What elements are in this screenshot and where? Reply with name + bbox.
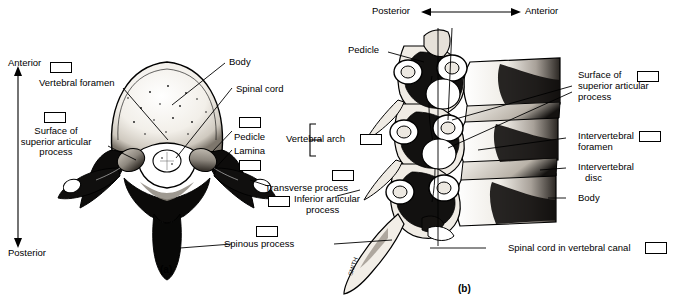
label-intervertebral-foramen: Intervertebral	[578, 131, 634, 142]
label-vertebral-foramen: Vertebral foramen	[39, 78, 115, 89]
orientation-posterior-left: Posterior	[8, 248, 46, 259]
checkbox-spinous-process[interactable]	[256, 226, 278, 237]
label-body-lateral: Body	[578, 193, 600, 204]
label-pedicle-lateral: Pedicle	[348, 45, 379, 56]
figure-canvas: SMITH	[0, 0, 673, 305]
orientation-anterior-left: Anterior	[8, 58, 41, 69]
checkbox-intervertebral-foramen[interactable]	[639, 131, 661, 142]
label-foramen-word: foramen	[578, 142, 613, 153]
label-surface-superior-articular-process: Surface of superior articular process	[6, 126, 106, 158]
label-vertebral-arch: Vertebral arch	[286, 134, 345, 145]
orientation-anterior-right: Anterior	[525, 6, 558, 17]
label-inferior-articular: Inferior articular	[294, 194, 360, 205]
checkbox-inferior-articular-process[interactable]	[268, 196, 290, 207]
label-spinal-cord: Spinal cord	[236, 84, 284, 95]
caption-panel-a: (a)	[160, 264, 172, 275]
checkbox-spinal-cord-in-vertebral-canal[interactable]	[645, 242, 667, 254]
label-line-superior-articular: superior articular	[21, 136, 92, 147]
label-spinous-process: Spinous process	[224, 239, 294, 250]
caption-panel-b: (b)	[458, 283, 471, 294]
label-transverse-process: Transverse process	[265, 183, 348, 194]
checkbox-lamina[interactable]	[239, 160, 261, 171]
checkbox-transverse-process[interactable]	[332, 170, 354, 181]
label-superior-articular-lateral: superior articular	[578, 81, 649, 92]
orientation-axis-right	[421, 8, 521, 16]
checkbox-pedicle[interactable]	[239, 117, 261, 128]
label-pedicle: Pedicle	[234, 132, 265, 143]
label-line-process: process	[39, 146, 72, 157]
label-body-superior: Body	[229, 57, 251, 68]
label-line-surface-of: Surface of	[34, 125, 77, 136]
label-surface-of-lateral: Surface of	[578, 70, 621, 81]
label-disc-word: disc	[585, 173, 602, 184]
vertebral-column-lateral-view: SMITH	[344, 28, 560, 294]
label-intervertebral-disc: Intervertebral	[578, 162, 634, 173]
checkbox-vertebral-arch[interactable]	[360, 134, 382, 145]
label-inferior-articular-process-word: process	[306, 205, 339, 216]
checkbox-vertebral-foramen[interactable]	[50, 62, 72, 73]
label-lamina: Lamina	[234, 146, 265, 157]
label-spinal-cord-in-vertebral-canal: Spinal cord in vertebral canal	[508, 243, 631, 254]
checkbox-surface-superior-articular-process[interactable]	[44, 112, 66, 123]
orientation-posterior-right: Posterior	[372, 6, 410, 17]
label-process-lateral: process	[578, 92, 611, 103]
